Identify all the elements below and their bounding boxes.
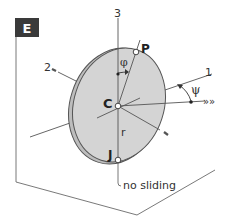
panel-label: E: [23, 21, 32, 36]
axis-3-label: 3: [114, 7, 121, 20]
direction-marker: »»: [203, 96, 215, 107]
point-j-label: J: [107, 148, 112, 162]
point-c-marker: [115, 103, 121, 109]
psi-dot: [189, 100, 193, 104]
axis-1-label: 1: [205, 66, 212, 79]
point-p-label: P: [141, 42, 150, 56]
point-j-marker: [115, 157, 121, 163]
phi-dot: [116, 72, 119, 75]
rolling-disk-diagram: E 3 2 1 P C J φ ψ r »» no sliding: [0, 0, 226, 223]
phi-label: φ: [120, 56, 128, 69]
axis-2-label: 2: [44, 61, 51, 74]
no-sliding-leader: [118, 163, 121, 186]
point-p-marker: [133, 49, 139, 55]
point-c-label: C: [103, 96, 113, 111]
radius-label: r: [121, 126, 126, 139]
psi-arrowhead: [177, 84, 183, 89]
psi-label: ψ: [191, 83, 200, 97]
no-sliding-annotation: no sliding: [123, 179, 176, 192]
